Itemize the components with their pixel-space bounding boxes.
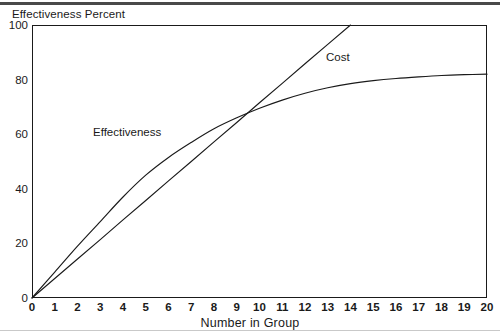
y-axis-tick-labels: 020406080100 [0,0,28,335]
x-tick-label: 14 [344,301,357,313]
x-tick-label: 1 [52,301,58,313]
x-tick-label: 0 [29,301,35,313]
y-tick-label: 0 [2,292,28,304]
x-tick-label: 4 [120,301,126,313]
x-tick-label: 18 [435,301,448,313]
x-tick-label: 12 [299,301,312,313]
y-tick-label: 100 [2,19,28,31]
y-axis-title: Effectiveness Percent [12,8,125,20]
x-tick-label: 6 [165,301,171,313]
x-tick-label: 9 [234,301,240,313]
scan-bottom-rule [0,330,500,331]
y-tick-label: 20 [2,237,28,249]
x-tick-label: 3 [97,301,103,313]
x-tick-label: 13 [321,301,334,313]
scan-top-rule [0,2,500,5]
x-tick-label: 5 [143,301,149,313]
x-tick-label: 7 [188,301,194,313]
x-tick-label: 15 [367,301,380,313]
series-label-cost: Cost [326,51,350,63]
x-tick-label: 17 [412,301,425,313]
y-tick-label: 60 [2,128,28,140]
plot-area [32,25,487,298]
x-axis-title: Number in Group [0,316,500,330]
x-tick-label: 19 [458,301,471,313]
x-tick-label: 10 [253,301,266,313]
series-line-cost [32,25,351,298]
x-tick-label: 11 [276,301,288,313]
chart-page: Effectiveness Percent 020406080100 01234… [0,0,500,335]
x-tick-label: 8 [211,301,217,313]
y-tick-label: 80 [2,74,28,86]
series-label-effectiveness: Effectiveness [93,126,161,138]
y-tick-label: 40 [2,183,28,195]
x-tick-label: 20 [481,301,494,313]
x-tick-label: 16 [390,301,403,313]
x-tick-label: 2 [74,301,80,313]
series-line-effectiveness [32,74,487,298]
